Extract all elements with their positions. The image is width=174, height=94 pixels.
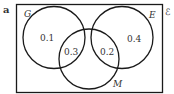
venn-diagram: a ℰ G E M 0.1 0.4 0.3 0.2	[0, 0, 174, 94]
region-g-only-value: 0.1	[40, 33, 54, 43]
set-g-label: G	[24, 9, 31, 19]
region-e-only-value: 0.4	[127, 34, 142, 44]
set-m-circle	[59, 29, 119, 89]
set-m-label: M	[112, 79, 123, 89]
region-e-and-m-value: 0.2	[100, 47, 114, 57]
universal-set-symbol: ℰ	[165, 7, 171, 17]
universal-set-rectangle	[17, 5, 163, 93]
set-e-circle	[91, 7, 153, 69]
part-label: a	[3, 4, 10, 15]
set-e-label: E	[148, 10, 156, 20]
region-g-and-m-value: 0.3	[64, 47, 79, 57]
